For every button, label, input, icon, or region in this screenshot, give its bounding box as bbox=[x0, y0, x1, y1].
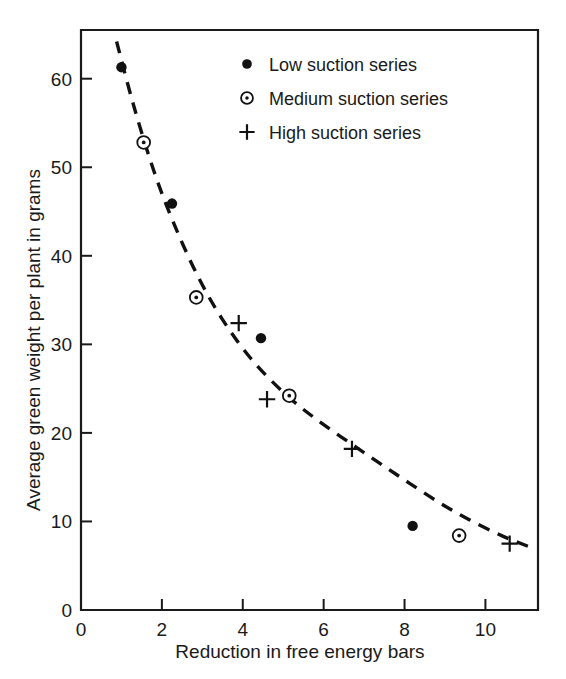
x-tick-label: 2 bbox=[157, 619, 168, 640]
x-tick-label: 8 bbox=[399, 619, 410, 640]
x-tick-label: 6 bbox=[318, 619, 329, 640]
legend-item-label: Medium suction series bbox=[269, 89, 448, 109]
data-point-dotted-circle-center bbox=[194, 296, 198, 300]
x-tick-label: 4 bbox=[237, 619, 248, 640]
y-tick-label: 20 bbox=[51, 423, 72, 444]
data-point-dotted-circle-center bbox=[287, 394, 291, 398]
y-axis-title: Average green weight per plant in grams bbox=[23, 169, 44, 511]
x-tick-label: 10 bbox=[475, 619, 496, 640]
legend-item-label: High suction series bbox=[269, 123, 421, 143]
x-tick-label: 0 bbox=[76, 619, 87, 640]
data-point-dotted-circle-center bbox=[142, 141, 146, 145]
chart-legend: Low suction seriesMedium suction seriesH… bbox=[239, 55, 448, 143]
data-point-filled-circle-marker bbox=[167, 198, 177, 208]
data-point-filled-circle-marker bbox=[407, 521, 417, 531]
data-point-filled-circle-marker bbox=[256, 333, 266, 343]
legend-item-label: Low suction series bbox=[269, 55, 417, 75]
data-point-filled-circle-marker bbox=[116, 62, 126, 72]
y-tick-label: 30 bbox=[51, 334, 72, 355]
chart-figure: 0246810 0102030405060 Reduction in free … bbox=[0, 0, 566, 679]
data-point-dotted-circle-center bbox=[457, 534, 461, 538]
y-tick-label: 50 bbox=[51, 157, 72, 178]
scatter-plot-svg: 0246810 0102030405060 Reduction in free … bbox=[0, 0, 566, 679]
legend-item: Medium suction series bbox=[241, 89, 448, 109]
y-tick-label: 0 bbox=[61, 600, 72, 621]
x-axis-title: Reduction in free energy bars bbox=[175, 641, 424, 662]
y-tick-label: 40 bbox=[51, 246, 72, 267]
y-tick-label: 60 bbox=[51, 69, 72, 90]
legend-dotted-circle-center bbox=[245, 96, 249, 100]
legend-item: Low suction series bbox=[242, 55, 417, 75]
y-tick-label: 10 bbox=[51, 511, 72, 532]
legend-filled-circle-marker bbox=[242, 59, 252, 69]
